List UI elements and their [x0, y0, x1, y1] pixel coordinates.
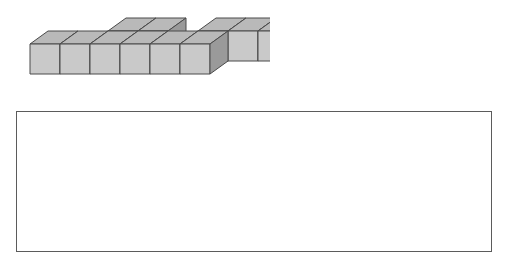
cube-figure-svg — [0, 0, 270, 98]
cube-front-face — [180, 44, 210, 74]
cube-front-face — [228, 31, 258, 61]
page-root — [0, 0, 508, 267]
cube-front-face — [150, 44, 180, 74]
answer-box[interactable] — [16, 111, 492, 252]
cube-front-face — [120, 44, 150, 74]
cube-front-face — [60, 44, 90, 74]
cube-front-face — [90, 44, 120, 74]
isometric-cube-figure — [0, 0, 270, 98]
cube-front-face — [30, 44, 60, 74]
cube-group — [30, 18, 270, 74]
cube-front-face — [258, 31, 270, 61]
answer-box-text — [17, 112, 491, 124]
